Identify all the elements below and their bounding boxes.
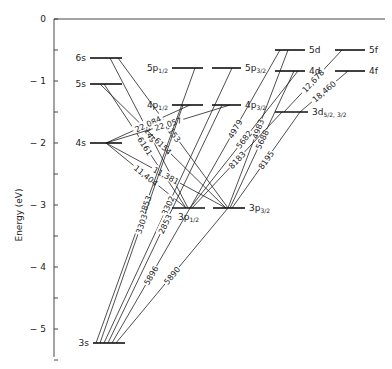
- energy-levels: 6s5s4s3s5p1/24p1/23p1/25p3/24p3/23p3/25d…: [76, 45, 379, 348]
- energy-axis: 0− 1− 2− 3− 4− 5: [30, 14, 385, 360]
- y-tick-label: − 4: [30, 262, 46, 272]
- level-label: 3p3/2: [249, 203, 270, 214]
- y-tick-label: 0: [40, 14, 46, 24]
- grotrian-diagram: 0− 1− 2− 3− 4− 5 514951536161615422,0842…: [0, 0, 392, 369]
- y-axis-label: Energy (eV): [14, 188, 24, 241]
- level-label: 4f: [369, 66, 379, 76]
- wavelength-label: 5896: [142, 265, 160, 287]
- wavelength-label: 2853: [157, 213, 174, 235]
- level-label: 4p3/2: [245, 100, 266, 111]
- level-label: 5d: [309, 45, 320, 55]
- level-label: 3p1/2: [178, 212, 199, 223]
- level-label: 5f: [369, 45, 379, 55]
- level-label: 3d5/2, 3/2: [312, 107, 347, 118]
- transition-lines: 514951536161615422,08422,05711,40411,381…: [96, 50, 348, 343]
- wavelength-label: 3303: [134, 213, 149, 235]
- level-label: 6s: [76, 53, 87, 63]
- level-label: 4d: [309, 66, 320, 76]
- level-label: 5s: [76, 79, 87, 89]
- wavelength-label: 8195: [257, 149, 276, 171]
- level-label: 5p1/2: [147, 63, 168, 74]
- y-tick-label: − 5: [30, 324, 46, 334]
- level-label: 3s: [79, 338, 90, 348]
- level-label: 4s: [76, 138, 87, 148]
- level-label: 5p3/2: [245, 63, 266, 74]
- level-label: 4p1/2: [147, 100, 168, 111]
- y-tick-label: − 3: [30, 200, 46, 210]
- y-tick-label: − 1: [30, 76, 46, 86]
- y-tick-label: − 2: [30, 138, 46, 148]
